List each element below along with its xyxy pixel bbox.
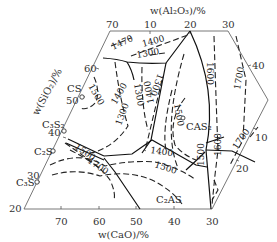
svg-text:1500: 1500 (172, 103, 186, 128)
bottom-tick-70: 70 (55, 216, 68, 227)
svg-text:1700: 1700 (232, 66, 246, 91)
top-tick-70: 70 (106, 19, 119, 30)
ternary-phase-diagram: 70 10 20 30 w(Al₂O₃)/% 20 30 40 50 60 w(… (0, 0, 277, 242)
svg-text:1400: 1400 (150, 145, 174, 158)
svg-text:1700: 1700 (230, 126, 251, 151)
phase-label-cas2: CAS₂ (186, 121, 212, 132)
top-axis-title: w(Al₂O₃)/% (150, 5, 206, 16)
bottom-tick-50: 50 (130, 216, 143, 227)
left-tick-50: 50 (66, 95, 79, 106)
isotherm-labels: 1470 1400 1300 1500 1300 1300 1400 1600 … (73, 33, 252, 177)
point-c3s (35, 180, 39, 184)
svg-text:1600: 1600 (213, 133, 223, 156)
svg-text:1600: 1600 (205, 62, 215, 85)
top-tick-10: 10 (144, 19, 157, 30)
svg-text:1500: 1500 (196, 143, 206, 166)
right-tick-10: 10 (255, 132, 268, 143)
svg-text:1500: 1500 (86, 82, 106, 107)
svg-text:1400: 1400 (109, 81, 129, 106)
bottom-tick-60: 60 (93, 216, 106, 227)
left-axis-title: w(SiO₂)/% (30, 66, 64, 117)
phase-label-cs: CS (67, 83, 82, 94)
phase-label-c3s2: C₃S₂ (42, 119, 65, 130)
right-tick-20: 20 (236, 163, 249, 174)
point-cs (80, 95, 84, 99)
bottom-tick-40: 40 (168, 216, 181, 227)
phase-label-c2s: C₂S (34, 146, 53, 157)
top-tick-20: 20 (184, 19, 197, 30)
top-ticks (150, 31, 190, 34)
phase-label-c2as: C₂AS (156, 194, 182, 205)
right-tick-40: 40 (252, 60, 265, 71)
left-tick-20: 20 (9, 203, 22, 214)
bottom-axis-title: w(CaO)/% (98, 229, 149, 240)
top-tick-30: 30 (222, 19, 235, 30)
phase-boundaries (66, 31, 255, 209)
svg-text:1470: 1470 (110, 33, 135, 52)
svg-text:1500: 1500 (153, 159, 178, 176)
svg-text:1300: 1300 (136, 46, 161, 60)
point-cas2 (181, 116, 185, 120)
bottom-tick-30: 30 (206, 216, 219, 227)
bottom-ticks (61, 206, 174, 209)
left-tick-60: 60 (84, 63, 97, 74)
phase-label-c3s: C₃S (16, 177, 35, 188)
